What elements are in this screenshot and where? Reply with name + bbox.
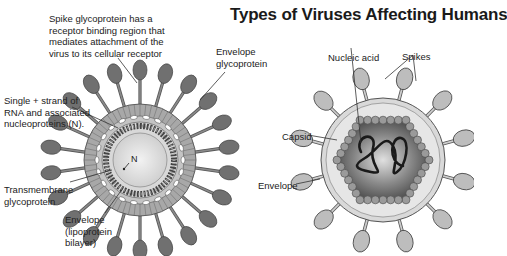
label-spike-glycoprotein: Spike glycoprotein has a receptor bindin…: [49, 13, 165, 59]
label-rna-nucleoproteins: Single + strand of RNA and associated nu…: [4, 95, 90, 130]
label-envelope: Envelope: [258, 180, 298, 192]
label-spikes: Spikes: [402, 51, 431, 63]
enveloped-virus-right: [289, 66, 474, 254]
label-envelope-lipoprotein: Envelope (lipoprotein bilayer): [65, 214, 112, 249]
label-transmembrane-glycoprotein: Transmembrane glycoprotein: [4, 184, 73, 207]
label-envelope-glycoprotein: Envelope glycoprotein: [216, 46, 267, 69]
n-marker: N: [131, 154, 138, 164]
label-capsid: Capsid: [282, 131, 312, 143]
label-nucleic-acid: Nucleic acid: [328, 52, 379, 64]
